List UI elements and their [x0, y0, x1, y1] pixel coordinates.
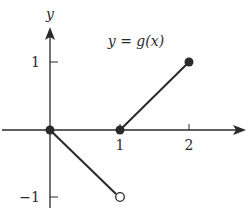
function-graph: 1 2 1 −1 y y = g(x) — [0, 0, 249, 210]
y-tick-label-neg1: −1 — [19, 189, 40, 205]
closed-point-1-0 — [116, 126, 125, 135]
y-axis: 1 −1 y — [19, 6, 58, 208]
open-point-1-neg1 — [116, 193, 125, 202]
y-axis-label: y — [45, 6, 55, 22]
x-tick-label-2: 2 — [185, 137, 194, 153]
segment-1 — [46, 126, 125, 202]
closed-point-2-1 — [185, 58, 194, 67]
closed-point-origin — [46, 126, 55, 135]
x-tick-label-1: 1 — [116, 137, 125, 153]
y-tick-label-pos1: 1 — [31, 54, 40, 70]
function-label: y = g(x) — [107, 33, 164, 49]
segment-2 — [116, 58, 194, 135]
